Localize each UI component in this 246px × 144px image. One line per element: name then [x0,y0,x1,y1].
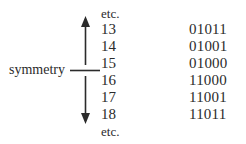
arrowhead-down-icon [81,113,90,124]
row-index-16: 16 [101,73,116,88]
arrowhead-up-icon [81,16,90,27]
symmetry-code-figure: symmetry etc. 13 01011 14 01001 15 01000… [0,0,246,144]
top-ellipsis-label: etc. [101,7,119,20]
row-index-13: 13 [101,22,116,37]
row-index-14: 14 [101,39,116,54]
symmetry-label: symmetry [9,63,65,77]
row-code-15: 01000 [189,56,228,71]
row-index-15: 15 [101,56,116,71]
bottom-ellipsis-label: etc. [101,125,119,138]
row-code-16: 11000 [189,73,227,88]
row-code-18: 11011 [189,107,226,122]
row-index-18: 18 [101,107,116,122]
row-code-13: 01011 [189,22,227,37]
row-index-17: 17 [101,90,116,105]
row-code-14: 01001 [189,39,228,54]
row-code-17: 11001 [189,90,227,105]
